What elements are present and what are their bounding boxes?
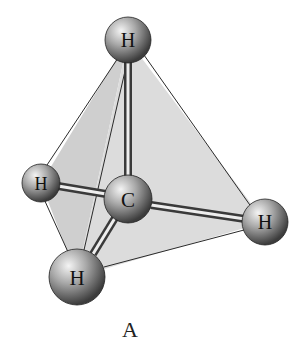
atom-h-left: H [22,164,60,202]
tetrahedron-faces [41,40,265,277]
svg-text:C: C [121,188,135,212]
svg-text:H: H [35,174,48,194]
atom-h-bottom: H [49,249,105,305]
svg-text:H: H [69,266,84,290]
svg-text:H: H [121,29,135,51]
atom-c-center: C [104,175,152,223]
methane-diagram: H H C H H [0,0,305,343]
svg-text:H: H [258,211,272,233]
atom-h-top: H [105,17,151,63]
caption-text: A [122,317,138,343]
atom-h-right: H [242,199,288,245]
